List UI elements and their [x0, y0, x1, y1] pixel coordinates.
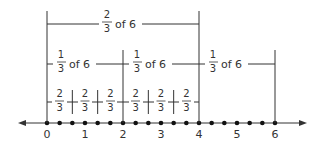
mid3-denominator: 3 [210, 63, 216, 74]
seg1-denominator: 3 [56, 102, 62, 113]
seg5-denominator: 3 [158, 102, 164, 113]
mid2-denominator: 3 [134, 63, 140, 74]
seg1-numerator: 2 [56, 88, 62, 99]
mid2-numerator: 1 [134, 49, 140, 60]
middle-bracket-1: 1 3 of 6 [47, 49, 123, 74]
top-denominator: 3 [104, 23, 110, 34]
seg3-numerator: 2 [107, 88, 113, 99]
tick-label-1: 1 [82, 128, 89, 141]
mid2-of-6-label: of 6 [145, 58, 166, 71]
top-numerator: 2 [104, 9, 110, 20]
top-bracket: 2 3 of 6 [47, 9, 199, 34]
seg4-numerator: 2 [132, 88, 138, 99]
mid3-numerator: 1 [210, 49, 216, 60]
mid1-numerator: 1 [58, 49, 64, 60]
tick-label-0: 0 [44, 128, 51, 141]
tick-label-3: 3 [158, 128, 165, 141]
left-arrow-icon [18, 120, 26, 126]
tick-label-4: 4 [196, 128, 203, 141]
seg6-numerator: 2 [183, 88, 189, 99]
fraction-number-line-diagram: 0 1 2 3 4 5 6 2 3 of 6 1 3 of 6 [0, 0, 322, 149]
seg3-denominator: 3 [107, 102, 113, 113]
middle-bracket-2: 1 3 of 6 [123, 49, 199, 74]
middle-bracket-3: 1 3 of 6 [199, 49, 275, 74]
seg4-denominator: 3 [132, 102, 138, 113]
tick-labels: 0 1 2 3 4 5 6 [44, 128, 279, 141]
mid1-denominator: 3 [58, 63, 64, 74]
mid1-of-6-label: of 6 [69, 58, 90, 71]
tick-label-6: 6 [272, 128, 279, 141]
mid3-of-6-label: of 6 [221, 58, 242, 71]
seg2-denominator: 3 [82, 102, 88, 113]
seg6-denominator: 3 [183, 102, 189, 113]
seg5-numerator: 2 [158, 88, 164, 99]
right-arrow-icon [299, 120, 307, 126]
top-of-6-label: of 6 [115, 18, 136, 31]
tick-label-2: 2 [120, 128, 127, 141]
tick-label-5: 5 [234, 128, 241, 141]
seg2-numerator: 2 [82, 88, 88, 99]
